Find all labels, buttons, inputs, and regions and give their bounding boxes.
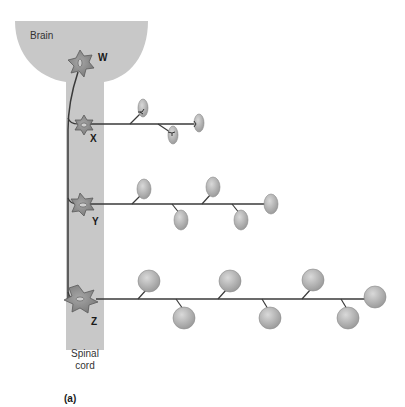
neuron-z-label: Z bbox=[91, 316, 97, 327]
brain-label: Brain bbox=[30, 30, 53, 42]
spinal-cord-label-line1: Spinal bbox=[66, 348, 104, 360]
motor-unit-z bbox=[64, 269, 386, 329]
motor-unit-diagram bbox=[0, 0, 405, 407]
neuron-x-label: X bbox=[90, 133, 97, 144]
spinal-cord-label: Spinal cord bbox=[66, 348, 104, 372]
neuron-y-label: Y bbox=[92, 216, 99, 227]
panel-label: (a) bbox=[64, 393, 76, 404]
neuron-w-label: W bbox=[98, 52, 107, 63]
spinal-cord-label-line2: cord bbox=[66, 360, 104, 372]
